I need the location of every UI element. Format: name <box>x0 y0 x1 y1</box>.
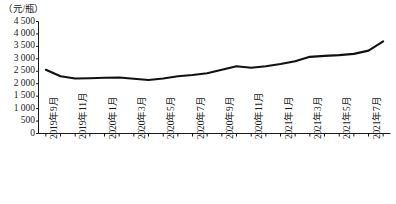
x-axis-tick-label: 2021年7月 <box>373 96 383 138</box>
x-axis-tick-label: 2021年3月 <box>314 96 324 138</box>
x-axis-tick-label: 2019年9月 <box>50 96 60 138</box>
x-axis-tick-label: 2020年3月 <box>138 96 148 138</box>
x-axis-tick-labels: 2019年9月2019年11月2020年1月2020年3月2020年5月2020… <box>0 0 396 204</box>
x-axis-tick-label: 2020年11月 <box>255 92 265 139</box>
x-axis-tick-label: 2020年7月 <box>197 96 207 138</box>
x-axis-tick-label: 2021年5月 <box>343 96 353 138</box>
x-axis-tick-label: 2021年1月 <box>285 96 295 138</box>
x-axis-tick-label: 2020年5月 <box>167 96 177 138</box>
x-axis-tick-label: 2020年1月 <box>109 96 119 138</box>
x-axis-tick-label: 2019年11月 <box>79 92 89 139</box>
x-axis-tick-label: 2020年9月 <box>226 96 236 138</box>
chart-figure: （元/瓶） 4 5004 0003 5003 0002 5002 0001 50… <box>0 0 396 204</box>
